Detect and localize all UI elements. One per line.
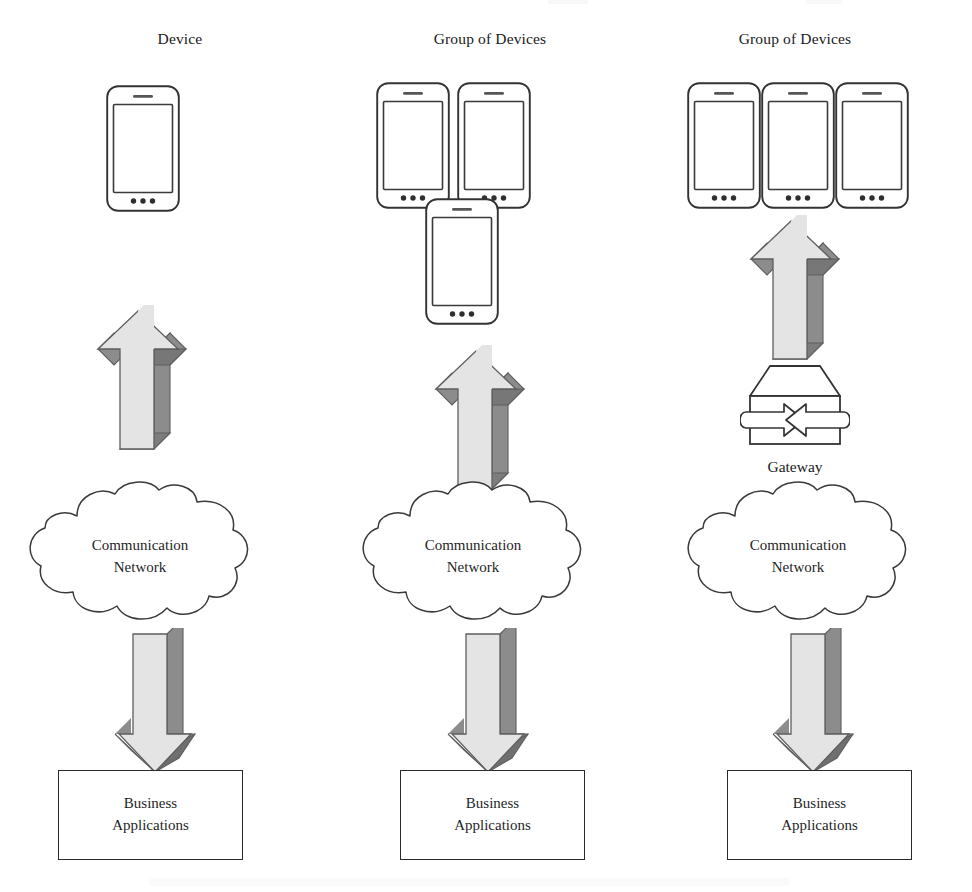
column-group-gateway — [688, 83, 908, 772]
business-applications-box-3 — [727, 770, 912, 860]
device-phone — [377, 83, 449, 208]
device-phone — [836, 83, 908, 208]
device-phone — [688, 83, 760, 208]
communication-network-cloud — [688, 482, 905, 619]
uplink-arrow-up — [751, 205, 839, 359]
business-applications-box-1 — [58, 770, 243, 860]
downlink-arrow-down — [773, 618, 853, 772]
device-phone — [107, 86, 179, 211]
device-phone — [426, 199, 498, 324]
diagram-vector-layer — [0, 0, 972, 892]
business-applications-box-2 — [400, 770, 585, 860]
column-single-device — [30, 86, 247, 772]
device-phone — [762, 83, 834, 208]
diagram-canvas: Device Group of Devices Group of Devices — [0, 0, 972, 892]
downlink-arrow-down — [448, 618, 528, 772]
communication-network-cloud — [363, 482, 580, 619]
gateway-icon — [740, 366, 850, 444]
gateway-label: Gateway — [675, 459, 915, 475]
downlink-arrow-down — [115, 618, 195, 772]
column-group-direct — [363, 83, 580, 772]
uplink-arrow-up — [98, 295, 186, 449]
uplink-arrow-up — [436, 335, 524, 489]
communication-network-cloud — [30, 482, 247, 619]
device-phone — [458, 83, 530, 208]
